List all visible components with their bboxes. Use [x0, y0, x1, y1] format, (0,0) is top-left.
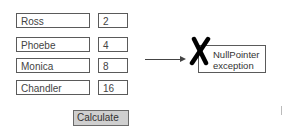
value-field-4[interactable]: 16 [98, 80, 128, 95]
name-field-3[interactable]: Monica [16, 58, 90, 73]
x-mark-icon [188, 36, 212, 66]
edge-mark [281, 106, 282, 115]
calculate-button[interactable]: Calculate [73, 110, 129, 126]
value-field-2[interactable]: 4 [98, 37, 128, 52]
arrow-line [145, 59, 182, 60]
error-text-line1: NullPointer [213, 49, 265, 60]
name-field-2[interactable]: Phoebe [16, 37, 90, 52]
arrow-right-icon [180, 56, 186, 62]
name-field-4[interactable]: Chandler [16, 80, 90, 95]
value-field-1[interactable]: 2 [98, 13, 128, 28]
value-field-3[interactable]: 8 [98, 58, 128, 73]
error-text-line2: exception [213, 60, 265, 71]
name-field-1[interactable]: Ross [16, 13, 90, 28]
